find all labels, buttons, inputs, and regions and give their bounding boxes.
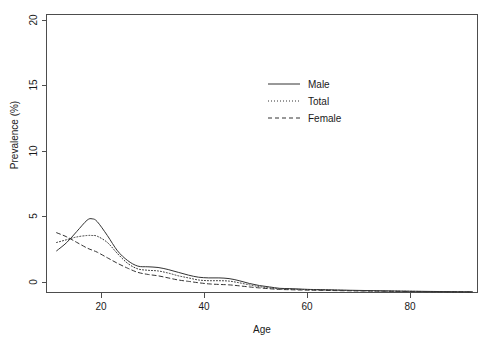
plot-frame [47,15,478,293]
x-axis-title: Age [253,324,271,335]
y-axis-tick-labels: 20 15 10 5 0 [28,14,39,285]
y-tick-label-5: 5 [28,213,39,219]
x-tick-label-40: 40 [198,301,210,312]
y-tick-label-15: 15 [28,79,39,91]
legend-label-male: Male [308,79,330,90]
x-tick-label-20: 20 [95,301,107,312]
chart-legend: MaleTotalFemale [268,79,342,124]
y-tick-label-20: 20 [28,14,39,26]
y-axis-title: Prevalence (%) [9,101,20,169]
legend-label-female: Female [308,113,342,124]
data-series-group [57,219,473,292]
series-line-female [57,233,473,292]
x-tick-label-60: 60 [301,301,313,312]
legend-label-total: Total [308,96,329,107]
y-tick-label-0: 0 [28,279,39,285]
x-axis-ticks [102,293,411,298]
chart-container: 20 15 10 5 0 Prevalence (%) 20 40 60 80 … [0,0,488,340]
series-line-male [57,219,473,292]
x-tick-label-80: 80 [404,301,416,312]
x-axis-tick-labels: 20 40 60 80 [95,301,416,312]
y-axis-ticks [42,21,47,283]
y-tick-label-10: 10 [28,145,39,157]
prevalence-by-age-line-chart: 20 15 10 5 0 Prevalence (%) 20 40 60 80 … [0,0,488,340]
